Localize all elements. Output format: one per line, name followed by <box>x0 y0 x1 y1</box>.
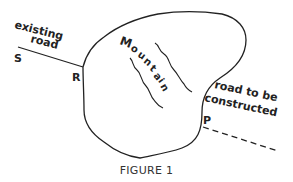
point-s-label: S <box>14 52 22 65</box>
diagram-canvas: existing road S R P road to be construct… <box>0 0 293 182</box>
svg-text:n: n <box>158 82 171 94</box>
point-r-label: R <box>72 71 81 84</box>
figure-1-diagram: existing road S R P road to be construct… <box>0 0 293 182</box>
point-p-label: P <box>203 114 211 127</box>
new-road-dashed-line <box>203 127 278 151</box>
figure-caption: FIGURE 1 <box>0 164 293 177</box>
